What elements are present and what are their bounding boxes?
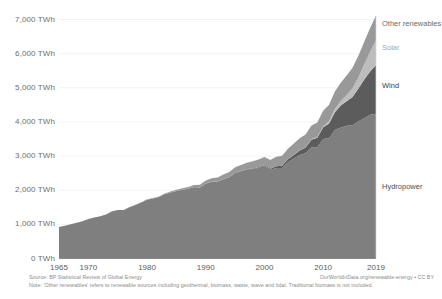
renewable-energy-area-chart: 0 TWh1,000 TWh2,000 TWh3,000 TWh4,000 TW… — [0, 0, 442, 299]
attribution-credit: OurWorldInData.org/renewable-energy • CC… — [320, 274, 434, 281]
series-label-wind: Wind — [382, 81, 399, 90]
x-tick-label: 2000 — [244, 263, 284, 272]
x-tick-label: 2019 — [356, 263, 396, 272]
y-tick-label: 5,000 TWh — [0, 83, 55, 92]
series-label-hydropower: Hydropower — [382, 182, 422, 191]
y-tick-label: 3,000 TWh — [0, 151, 55, 160]
chart-plot-area — [0, 0, 442, 299]
series-label-solar: Solar — [382, 43, 400, 52]
methodology-note: Note: 'Other renewables' refers to renew… — [29, 282, 373, 289]
x-tick-label: 1990 — [186, 263, 226, 272]
y-tick-label: 7,000 TWh — [0, 15, 55, 24]
series-label-other-renewables: Other renewables — [382, 19, 441, 28]
y-tick-label: 1,000 TWh — [0, 219, 55, 228]
y-tick-label: 6,000 TWh — [0, 49, 55, 58]
x-tick-label: 1980 — [127, 263, 167, 272]
x-tick-label: 1970 — [68, 263, 108, 272]
y-tick-label: 0 TWh — [0, 254, 55, 263]
x-tick-label: 2010 — [303, 263, 343, 272]
y-tick-label: 2,000 TWh — [0, 185, 55, 194]
y-tick-label: 4,000 TWh — [0, 117, 55, 126]
source-note: Source: BP Statistical Review of Global … — [29, 274, 142, 281]
